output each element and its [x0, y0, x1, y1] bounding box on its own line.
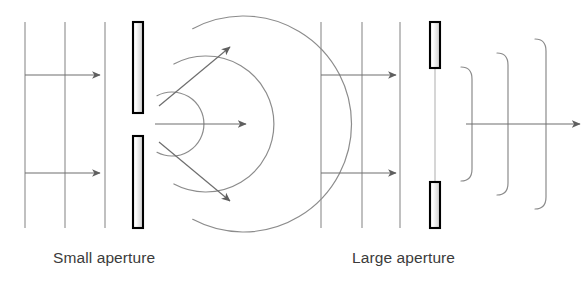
caption-large-aperture: Large aperture — [352, 249, 455, 267]
barrier-segment-bottom — [133, 136, 143, 228]
diagram-background — [0, 0, 588, 291]
barrier-segment-bottom — [430, 182, 440, 228]
diffraction-diagram — [0, 0, 588, 291]
barrier-segment-top — [430, 22, 440, 68]
barrier-segment-top — [133, 22, 143, 113]
caption-small-aperture: Small aperture — [53, 249, 155, 267]
